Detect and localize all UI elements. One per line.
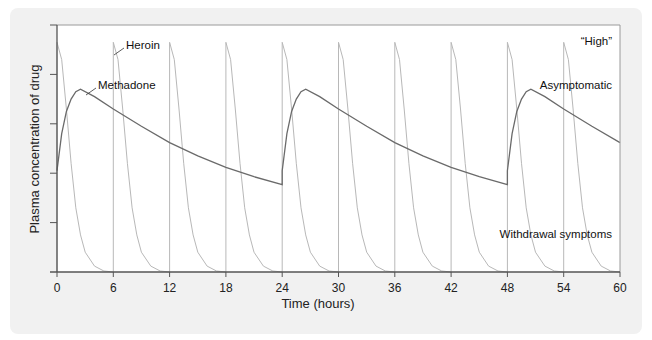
x-axis-title: Time (hours) <box>281 296 354 311</box>
x-tick-label: 12 <box>163 281 177 295</box>
annotation-asymptomatic: Asymptomatic <box>540 79 612 91</box>
x-tick-label: 30 <box>332 281 346 295</box>
x-tick-label: 36 <box>388 281 402 295</box>
annotation-high: “High” <box>581 35 612 47</box>
annotation-withdrawal: Withdrawal symptoms <box>500 228 613 240</box>
x-tick-label: 24 <box>276 281 290 295</box>
heroin-label: Heroin <box>126 39 160 51</box>
x-tick-label: 0 <box>54 281 61 295</box>
x-tick-label: 18 <box>219 281 233 295</box>
y-axis-title: Plasma concentration of drug <box>27 64 42 233</box>
methadone-label: Methadone <box>98 79 156 91</box>
chart-svg: 06121824303642485460 Time (hours) Plasma… <box>0 0 652 340</box>
x-tick-label: 54 <box>557 281 571 295</box>
x-tick-label: 48 <box>501 281 515 295</box>
x-tick-label: 6 <box>110 281 117 295</box>
x-tick-label: 60 <box>613 281 627 295</box>
x-tick-label: 42 <box>444 281 458 295</box>
